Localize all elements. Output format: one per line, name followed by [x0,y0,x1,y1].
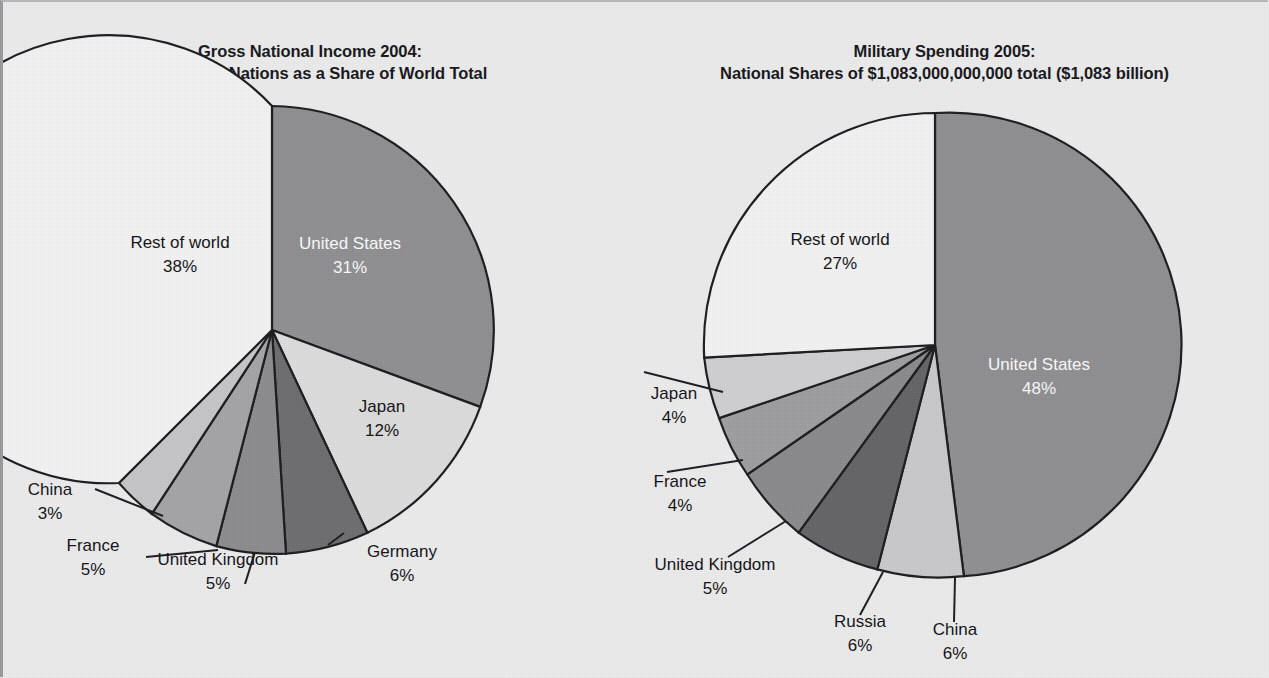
slice-label-france-pct: 5% [38,558,148,582]
slice-label-china-name: China [933,620,977,639]
slice-label-china: China 3% [2,478,98,526]
slice-label-rest-of-world-name: Rest of world [790,230,889,249]
leader-line-united-kingdom [728,521,786,557]
slice-label-france: France 4% [620,470,740,518]
slice-label-germany: Germany 6% [337,540,467,588]
slice-label-united-kingdom-pct: 5% [620,577,810,601]
slice-label-japan: Japan 4% [620,382,728,430]
slice-label-rest-of-world: Rest of world 38% [100,231,260,279]
slice-label-united-states: United States 31% [270,232,430,280]
slice-label-germany-pct: 6% [337,564,467,588]
slice-label-china-name: China [28,480,72,499]
slice-label-japan-name: Japan [359,397,405,416]
chart-panel-gni-2004: Gross National Income 2004: Six Leading … [0,0,620,678]
slice-label-france-name: France [67,536,120,555]
slice-label-united-states-pct: 48% [954,377,1124,401]
slice-label-japan-pct: 12% [322,419,442,443]
slice-label-russia-pct: 6% [800,634,920,658]
slice-label-germany-name: Germany [367,542,437,561]
slice-label-rest-of-world-pct: 27% [755,252,925,276]
slice-label-united-kingdom: United Kingdom 5% [620,553,810,601]
slice-label-united-kingdom-pct: 5% [128,572,308,596]
slice-label-russia-name: Russia [834,612,886,631]
slice-label-united-states-name: United States [299,234,401,253]
slice-label-japan: Japan 12% [322,395,442,443]
slice-label-japan-pct: 4% [620,406,728,430]
slice-label-united-kingdom-name: United Kingdom [655,555,776,574]
slice-label-japan-name: Japan [651,384,697,403]
slice-label-rest-of-world: Rest of world 27% [755,228,925,276]
slice-label-france: France 5% [38,534,148,582]
leader-line-russia [860,572,883,615]
chart-panel-military-2005: Military Spending 2005: National Shares … [620,0,1269,678]
slice-label-rest-of-world-pct: 38% [100,255,260,279]
slice-label-rest-of-world-name: Rest of world [130,233,229,252]
slice-label-united-states-pct: 31% [270,256,430,280]
slice-label-united-kingdom: United Kingdom 5% [128,548,308,596]
leader-line-china [954,578,955,622]
slice-label-united-states-name: United States [988,355,1090,374]
pie-slice-united-states[interactable] [935,113,1182,577]
slice-label-united-kingdom-name: United Kingdom [158,550,279,569]
slice-label-france-pct: 4% [620,494,740,518]
slice-label-russia: Russia 6% [800,610,920,658]
slice-label-france-name: France [654,472,707,491]
figure-two-pie-charts: Gross National Income 2004: Six Leading … [0,0,1269,678]
slice-label-china-pct: 3% [2,502,98,526]
slice-label-united-states: United States 48% [954,353,1124,401]
